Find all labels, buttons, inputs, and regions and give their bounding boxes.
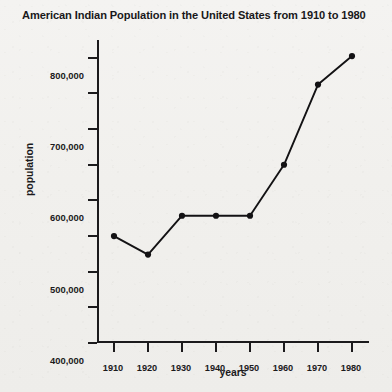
y-tick: 800,000 [88, 57, 97, 59]
y-tick-label: 800,000 [50, 69, 84, 80]
y-tick: 500,000 [88, 164, 97, 166]
x-tick: 1950 [249, 343, 251, 352]
y-tick-label: 500,000 [50, 283, 84, 294]
y-tick: 300,000 [88, 235, 97, 237]
y-tick-label: 400,000 [50, 354, 84, 365]
chart-page: American Indian Population in the United… [0, 0, 392, 392]
data-point [247, 213, 253, 219]
x-tick: 1980 [351, 343, 353, 352]
x-tick: 1920 [147, 343, 149, 352]
x-tick: 1940 [215, 343, 217, 352]
y-tick: 200,000 [88, 271, 97, 273]
plot-area: 0100,000200,000300,000400,000500,000600,… [97, 40, 369, 343]
data-point [213, 213, 219, 219]
y-tick: 700,000 [88, 92, 97, 94]
data-point [315, 81, 321, 87]
data-point [111, 233, 117, 239]
x-tick: 1960 [283, 343, 285, 352]
data-point [145, 252, 151, 258]
x-tick: 1910 [113, 343, 115, 352]
series-markers [111, 53, 355, 258]
y-tick-label: 600,000 [50, 212, 84, 223]
data-point [179, 213, 185, 219]
data-point [349, 53, 355, 59]
data-point [281, 162, 287, 168]
y-tick: 400,000 [88, 199, 97, 201]
x-axis-title: years [97, 367, 369, 378]
chart-title: American Indian Population in the United… [22, 9, 380, 21]
y-tick: 100,000 [88, 306, 97, 308]
y-axis-title: population [24, 143, 35, 196]
population-line-series [97, 40, 369, 343]
y-tick: 600,000 [88, 128, 97, 130]
x-tick: 1970 [317, 343, 319, 352]
x-tick: 1930 [181, 343, 183, 352]
y-tick-label: 700,000 [50, 140, 84, 151]
y-tick: 0 [88, 342, 97, 344]
